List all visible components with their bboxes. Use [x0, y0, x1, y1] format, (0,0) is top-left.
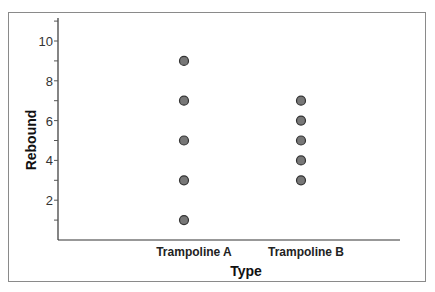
data-point	[180, 216, 189, 225]
x-category-label: Trampoline A	[156, 245, 232, 259]
data-point	[297, 176, 306, 185]
data-point	[297, 156, 306, 165]
y-tick-label: 2	[46, 193, 53, 208]
x-axis-title: Type	[230, 263, 262, 279]
data-points	[180, 56, 306, 224]
data-point	[180, 136, 189, 145]
dot-plot: 246810 Trampoline ATrampoline B Type Reb…	[0, 0, 435, 292]
data-point	[180, 96, 189, 105]
data-point	[180, 56, 189, 65]
data-point	[180, 176, 189, 185]
y-tick-label: 4	[46, 153, 53, 168]
y-tick-label: 8	[46, 74, 53, 89]
data-point	[297, 116, 306, 125]
x-categories: Trampoline ATrampoline B	[156, 245, 344, 259]
axes	[58, 18, 400, 240]
x-category-label: Trampoline B	[268, 245, 344, 259]
y-tick-label: 10	[39, 34, 53, 49]
y-ticks: 246810	[39, 21, 58, 220]
y-axis-title: Rebound	[23, 110, 39, 171]
data-point	[297, 136, 306, 145]
data-point	[297, 96, 306, 105]
y-tick-label: 6	[46, 114, 53, 129]
